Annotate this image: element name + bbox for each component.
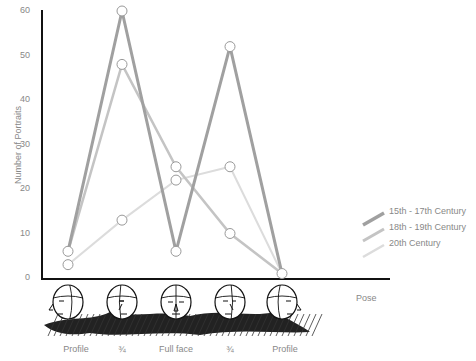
data-point-marker: [277, 269, 287, 279]
y-tick-label: 0: [8, 272, 30, 282]
series-layer: [63, 6, 287, 279]
profile-left-head-icon: [49, 285, 83, 319]
profile-right-head-icon: [267, 285, 301, 319]
y-tick-label: 20: [8, 183, 30, 193]
legend-swatch: [363, 229, 384, 241]
pose-illustrations: [44, 285, 322, 336]
data-point-marker: [63, 246, 73, 256]
y-tick-label: 40: [8, 94, 30, 104]
data-point-marker: [63, 260, 73, 270]
legend-label: 18th - 19th Century: [389, 222, 466, 232]
full-face-head-icon: [161, 285, 191, 319]
legend-swatch: [363, 213, 384, 225]
data-point-marker: [171, 175, 181, 185]
data-point-marker: [225, 229, 235, 239]
x-category-label: ¾: [92, 344, 152, 354]
x-axis-label: Pose: [356, 293, 377, 303]
data-point-marker: [171, 246, 181, 256]
x-category-label: Profile: [255, 344, 315, 354]
three-quarter-right-head-icon: [215, 285, 245, 319]
y-tick-label: 10: [8, 228, 30, 238]
data-point-marker: [117, 59, 127, 69]
data-point-marker: [171, 162, 181, 172]
data-point-marker: [225, 42, 235, 52]
data-point-marker: [117, 6, 127, 16]
legend-label: 20th Century: [389, 238, 441, 248]
y-tick-label: 50: [8, 50, 30, 60]
legend: [363, 213, 384, 257]
y-tick-label: 30: [8, 139, 30, 149]
data-point-marker: [225, 162, 235, 172]
y-tick-label: 60: [8, 5, 30, 15]
legend-swatch: [363, 245, 384, 257]
x-category-label: ¾: [200, 344, 260, 354]
x-category-label: Full face: [146, 344, 206, 354]
chart-canvas: [0, 0, 476, 361]
data-point-marker: [117, 215, 127, 225]
legend-label: 15th - 17th Century: [389, 206, 466, 216]
three-quarter-left-head-icon: [107, 285, 137, 319]
